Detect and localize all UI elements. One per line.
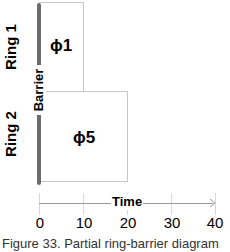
ring-1-label: Ring 1 <box>2 17 20 77</box>
gridline-30 <box>171 193 172 215</box>
tick-label: 0 <box>25 214 55 232</box>
gridline-10 <box>83 193 84 215</box>
tick-label: 10 <box>69 214 99 232</box>
gridline-0 <box>39 193 40 215</box>
figure-caption: Figure 33. Partial ring-barrier diagram <box>2 236 219 252</box>
barrier-label: Barrier <box>32 65 46 115</box>
phase-1-label: ϕ1 <box>50 36 72 56</box>
ring-2-label: Ring 2 <box>2 104 20 164</box>
arrow-right-icon <box>209 198 217 208</box>
time-axis-label: Time <box>111 194 143 210</box>
phase-5-label: ϕ5 <box>73 128 95 148</box>
tick-label: 30 <box>157 214 187 232</box>
tick-label: 20 <box>113 214 143 232</box>
tick-label: 40 <box>200 214 230 232</box>
